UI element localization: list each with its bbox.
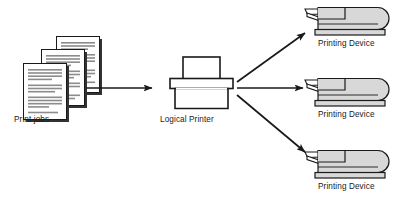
logical-printer-paper bbox=[183, 57, 220, 79]
device-1-top-panel bbox=[318, 79, 345, 91]
arrow-printer-to-device-2 bbox=[237, 95, 305, 152]
printing-device-icon-1 bbox=[305, 79, 389, 107]
device-1-base bbox=[315, 101, 385, 107]
diagram-canvas bbox=[0, 0, 412, 210]
logical-printer-body bbox=[175, 89, 228, 109]
device-2-top-panel bbox=[318, 151, 345, 163]
printing-device-icon-0 bbox=[305, 8, 389, 36]
printing-architecture-diagram: Print jobs Logical Printer Printing Devi… bbox=[0, 0, 412, 210]
device-0-base bbox=[315, 30, 385, 36]
printing-device-label-2: Printing Device bbox=[318, 182, 375, 191]
printing-device-label-0: Printing Device bbox=[318, 39, 375, 48]
logical-printer-label: Logical Printer bbox=[160, 115, 214, 124]
printing-device-label-1: Printing Device bbox=[318, 110, 375, 119]
document-stack-icon bbox=[24, 37, 103, 123]
logical-printer-tray bbox=[170, 79, 233, 89]
document-front bbox=[24, 64, 70, 123]
printing-device-icon-2 bbox=[305, 151, 389, 179]
device-0-top-panel bbox=[318, 8, 345, 20]
logical-printer-icon bbox=[170, 57, 233, 109]
print-jobs-label: Print jobs bbox=[14, 115, 49, 124]
device-2-base bbox=[315, 173, 385, 179]
arrow-printer-to-device-0 bbox=[237, 33, 305, 82]
